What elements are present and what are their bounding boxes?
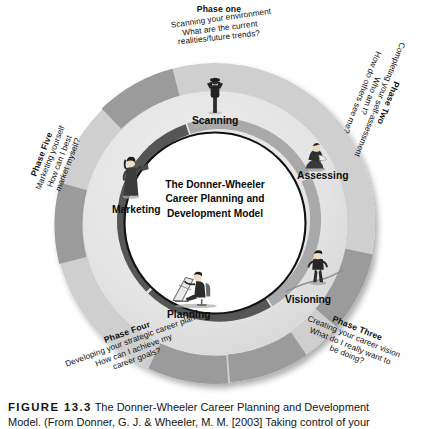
- figure-number: FIGURE 13.3: [8, 401, 92, 413]
- caption-line-2: Model. (From Donner, G. J. & Wheeler, M.…: [8, 416, 426, 428]
- figure-caption: FIGURE 13.3 The Donner-Wheeler Career Pl…: [8, 400, 426, 428]
- phase-label-one: Phase one Scanning your environment What…: [124, 4, 314, 43]
- stage-label-assessing: Assessing: [297, 170, 349, 181]
- stage-label-scanning: Scanning: [192, 115, 238, 126]
- stage-label-marketing: Marketing: [112, 204, 161, 215]
- figure-container: The Donner-Wheeler Career Planning and D…: [0, 0, 430, 429]
- caption-line-1: The Donner-Wheeler Career Planning and D…: [95, 401, 370, 413]
- center-line-1: The Donner-Wheeler: [133, 178, 297, 192]
